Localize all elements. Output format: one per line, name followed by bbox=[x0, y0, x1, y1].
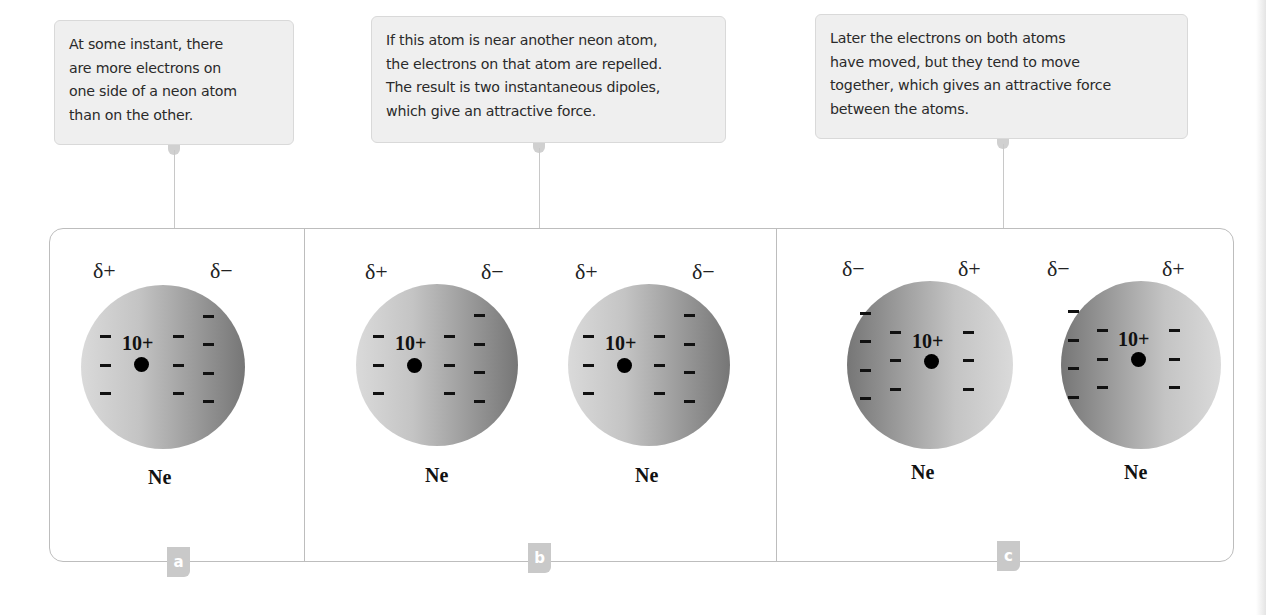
electron-icon bbox=[173, 335, 184, 338]
electron-icon bbox=[100, 364, 111, 367]
electron-icon bbox=[860, 397, 871, 400]
callout-text-line: than on the other. bbox=[69, 104, 277, 128]
callout-text-line: between the atoms. bbox=[830, 98, 1171, 122]
nuclear-charge-label: 10+ bbox=[395, 332, 426, 355]
element-symbol-label: Ne bbox=[635, 464, 658, 487]
delta-right-label: δ− bbox=[481, 259, 504, 285]
callout-text-line: the electrons on that atom are repelled. bbox=[386, 53, 709, 77]
delta-right-label: δ− bbox=[692, 259, 715, 285]
element-symbol-label: Ne bbox=[911, 461, 934, 484]
callout-text-line: have moved, but they tend to move bbox=[830, 51, 1171, 75]
electron-icon bbox=[860, 369, 871, 372]
callout-a: At some instant, there are more electron… bbox=[54, 20, 294, 145]
electron-icon bbox=[860, 340, 871, 343]
electron-icon bbox=[684, 343, 695, 346]
electron-icon bbox=[474, 400, 485, 403]
electron-icon bbox=[373, 364, 384, 367]
electron-icon bbox=[963, 388, 974, 391]
electron-icon bbox=[654, 335, 665, 338]
nucleus-dot bbox=[407, 358, 422, 373]
electron-icon bbox=[1097, 358, 1108, 361]
element-symbol-label: Ne bbox=[148, 466, 171, 489]
electron-icon bbox=[173, 364, 184, 367]
delta-right-label: δ− bbox=[210, 258, 233, 284]
panel-label-badge: c bbox=[997, 541, 1020, 571]
callout-text-line: one side of a neon atom bbox=[69, 80, 277, 104]
callout-text-line: which give an attractive force. bbox=[386, 100, 709, 124]
electron-icon bbox=[100, 335, 111, 338]
callout-text-line: The result is two instantaneous dipoles, bbox=[386, 76, 709, 100]
electron-icon bbox=[203, 372, 214, 375]
panel-divider-ab bbox=[304, 228, 305, 562]
callout-b-connector bbox=[539, 148, 540, 228]
electron-icon bbox=[890, 359, 901, 362]
electron-icon bbox=[1169, 358, 1180, 361]
electron-icon bbox=[890, 388, 901, 391]
nuclear-charge-label: 10+ bbox=[605, 332, 636, 355]
electron-icon bbox=[100, 392, 111, 395]
element-symbol-label: Ne bbox=[1124, 461, 1147, 484]
electron-icon bbox=[444, 335, 455, 338]
panel-label-badge: b bbox=[528, 543, 551, 573]
callout-text-line: are more electrons on bbox=[69, 57, 277, 81]
callout-b: If this atom is near another neon atom, … bbox=[371, 16, 726, 143]
nuclear-charge-label: 10+ bbox=[122, 332, 153, 355]
electron-icon bbox=[203, 343, 214, 346]
nucleus-dot bbox=[924, 354, 939, 369]
page-edge-shadow bbox=[1256, 0, 1266, 615]
panel-label-badge: a bbox=[167, 547, 190, 577]
nuclear-charge-label: 10+ bbox=[1118, 328, 1149, 351]
callout-a-connector bbox=[174, 150, 175, 228]
callout-text-line: Later the electrons on both atoms bbox=[830, 27, 1171, 51]
electron-icon bbox=[684, 400, 695, 403]
callout-c: Later the electrons on both atoms have m… bbox=[815, 14, 1188, 139]
callout-text-line: together, which gives an attractive forc… bbox=[830, 74, 1171, 98]
electron-icon bbox=[583, 335, 594, 338]
neon-atom bbox=[81, 285, 245, 449]
electron-icon bbox=[684, 371, 695, 374]
electron-icon bbox=[1097, 386, 1108, 389]
electron-icon bbox=[1068, 310, 1079, 313]
callout-c-connector bbox=[1003, 144, 1004, 228]
nuclear-charge-label: 10+ bbox=[912, 330, 943, 353]
electron-icon bbox=[1068, 339, 1079, 342]
electron-icon bbox=[373, 392, 384, 395]
electron-icon bbox=[654, 392, 665, 395]
electron-icon bbox=[474, 343, 485, 346]
nucleus-dot bbox=[134, 357, 149, 372]
delta-left-label: δ− bbox=[1047, 256, 1070, 282]
electron-icon bbox=[654, 364, 665, 367]
electron-icon bbox=[203, 400, 214, 403]
electron-icon bbox=[1169, 386, 1180, 389]
electron-icon bbox=[1097, 329, 1108, 332]
electron-icon bbox=[583, 392, 594, 395]
delta-left-label: δ− bbox=[842, 256, 865, 282]
delta-right-label: δ+ bbox=[1162, 256, 1185, 282]
electron-icon bbox=[1169, 329, 1180, 332]
panel-divider-bc bbox=[776, 228, 777, 562]
electron-icon bbox=[444, 392, 455, 395]
callout-text-line: At some instant, there bbox=[69, 33, 277, 57]
electron-icon bbox=[373, 335, 384, 338]
electron-icon bbox=[474, 371, 485, 374]
element-symbol-label: Ne bbox=[425, 464, 448, 487]
electron-icon bbox=[1068, 396, 1079, 399]
electron-icon bbox=[963, 359, 974, 362]
delta-left-label: δ+ bbox=[93, 258, 116, 284]
electron-icon bbox=[444, 364, 455, 367]
delta-left-label: δ+ bbox=[575, 259, 598, 285]
electron-icon bbox=[890, 331, 901, 334]
callout-text-line: If this atom is near another neon atom, bbox=[386, 29, 709, 53]
electron-icon bbox=[1068, 367, 1079, 370]
nucleus-dot bbox=[1131, 352, 1146, 367]
delta-right-label: δ+ bbox=[958, 256, 981, 282]
electron-icon bbox=[963, 331, 974, 334]
electron-icon bbox=[173, 392, 184, 395]
electron-icon bbox=[474, 314, 485, 317]
electron-icon bbox=[203, 315, 214, 318]
electron-icon bbox=[860, 312, 871, 315]
electron-icon bbox=[684, 314, 695, 317]
electron-icon bbox=[583, 364, 594, 367]
nucleus-dot bbox=[617, 358, 632, 373]
delta-left-label: δ+ bbox=[365, 259, 388, 285]
